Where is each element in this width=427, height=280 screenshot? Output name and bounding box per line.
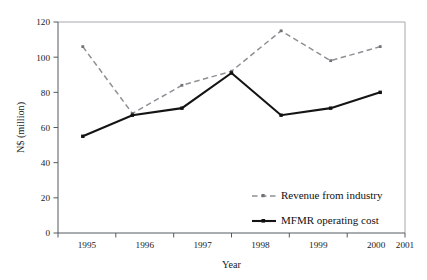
data-point-marker: [131, 113, 134, 116]
data-point-marker: [181, 84, 184, 87]
x-axis-tick-labels: 1995 1996 1997 1998 1999 2000 2001: [78, 240, 415, 250]
y-tick-label: 0: [45, 228, 50, 238]
data-point-marker: [81, 135, 84, 138]
x-tick-label: 2000: [367, 240, 386, 250]
legend-label-cost: MFMR operating cost: [281, 214, 379, 226]
chart-svg: 120 100 80 60 40 20 0 N$ (million) 1995 …: [0, 0, 427, 280]
y-tick-label: 20: [41, 193, 51, 203]
data-point-marker: [329, 59, 332, 62]
legend-marker-cost: [262, 219, 266, 223]
y-tick-label: 100: [36, 53, 50, 63]
data-point-marker: [280, 29, 283, 32]
data-point-marker: [180, 106, 183, 109]
y-tick-label: 40: [41, 158, 51, 168]
x-tick-label: 1996: [136, 240, 155, 250]
line-chart: 120 100 80 60 40 20 0 N$ (million) 1995 …: [0, 0, 427, 280]
x-axis-title: Year: [222, 259, 241, 270]
data-point-marker: [230, 71, 233, 74]
y-axis-tick-labels: 120 100 80 60 40 20 0: [36, 17, 50, 238]
x-axis-ticks: [58, 233, 405, 238]
x-tick-label: 2001: [396, 240, 415, 250]
data-point-marker: [279, 113, 282, 116]
legend-marker-revenue: [262, 194, 265, 197]
y-axis-ticks: [54, 22, 59, 233]
data-point-marker: [81, 45, 84, 48]
x-tick-label: 1999: [309, 240, 328, 250]
y-axis-title: N$ (million): [15, 102, 27, 153]
x-tick-label: 1997: [193, 240, 212, 250]
y-tick-label: 80: [41, 88, 51, 98]
data-point-marker: [379, 91, 382, 94]
y-tick-label: 120: [36, 17, 50, 27]
legend-label-revenue: Revenue from industry: [281, 189, 383, 201]
x-tick-label: 1998: [251, 240, 270, 250]
data-point-marker: [329, 106, 332, 109]
x-tick-label: 1995: [78, 240, 97, 250]
y-tick-label: 60: [41, 123, 51, 133]
data-point-marker: [379, 45, 382, 48]
